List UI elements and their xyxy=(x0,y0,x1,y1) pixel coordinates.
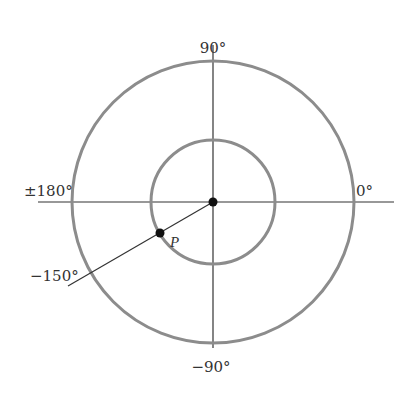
ray-minus-150 xyxy=(68,202,213,286)
label-minus-150: −150° xyxy=(30,267,79,285)
label-90: 90° xyxy=(200,39,227,57)
label-0: 0° xyxy=(356,182,373,200)
label-minus-90: −90° xyxy=(191,358,230,376)
label-plus-minus-180: ±180° xyxy=(24,182,73,200)
polar-angle-diagram: 90° −90° ±180° 0° −150° P xyxy=(0,0,411,394)
center-dot xyxy=(209,198,218,207)
point-p-dot xyxy=(156,229,165,238)
label-point-p: P xyxy=(169,234,179,250)
